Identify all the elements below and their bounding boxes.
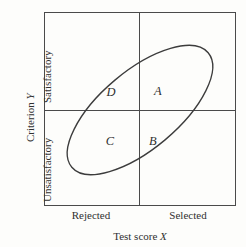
x-axis-title: Test score X	[113, 230, 167, 242]
y-axis-title-variable: Y	[24, 93, 36, 99]
scatter-quadrant-figure: D A C B Rejected Selected Test score X S…	[0, 0, 246, 247]
quadrant-label-a: A	[154, 84, 162, 99]
quadrant-label-d: D	[106, 85, 115, 100]
x-axis-title-variable: X	[160, 230, 167, 242]
quadrant-label-c: C	[106, 134, 115, 149]
y-axis-title-text: Criterion	[24, 100, 36, 142]
x-axis-title-text: Test score	[113, 230, 160, 242]
x-tick-label-selected: Selected	[169, 209, 206, 221]
y-tick-label-unsatisfactory: Unsatisfactory	[41, 138, 53, 202]
plot-canvas	[0, 0, 246, 247]
y-axis-title: Criterion Y	[24, 93, 36, 142]
x-tick-label-rejected: Rejected	[72, 209, 110, 221]
quadrant-label-b: B	[149, 134, 157, 149]
y-tick-label-satisfactory: Satisfactory	[41, 50, 53, 103]
